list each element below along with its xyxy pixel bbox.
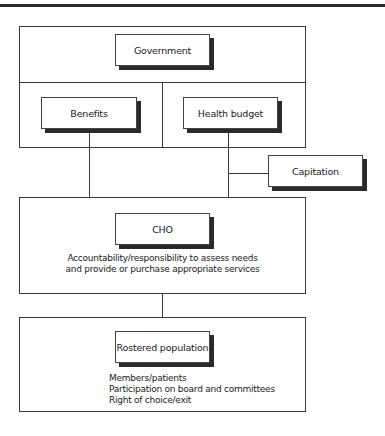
cho-description-line: Accountability/responsibility to assess … (19, 253, 306, 264)
rostered-description-line: Participation on board and committees (109, 384, 275, 395)
cho-section-frame (19, 197, 306, 294)
health-budget-label: Health budget (198, 108, 263, 119)
cho-description-line: and provide or purchase appropriate serv… (19, 264, 306, 275)
rostered-description-line: Right of choice/exit (109, 395, 275, 406)
benefits-to-cho-connector (89, 133, 90, 197)
cho-box: CHO (115, 213, 210, 245)
top-rule-divider (0, 4, 385, 7)
cho-description: Accountability/responsibility to assess … (19, 253, 306, 275)
rostered-description: Members/patients Participation on board … (109, 373, 275, 406)
rostered-description-line: Members/patients (109, 373, 275, 384)
rostered-population-label: Rostered population (117, 342, 209, 353)
government-column-divider (162, 82, 163, 148)
cho-label: CHO (152, 224, 173, 235)
capitation-box: Capitation (268, 155, 363, 187)
health-budget-box: Health budget (183, 97, 278, 129)
benefits-box: Benefits (41, 97, 137, 129)
government-box: Government (115, 34, 210, 66)
health-budget-to-cho-connector (228, 133, 229, 197)
government-label: Government (134, 45, 191, 56)
capitation-label: Capitation (292, 166, 339, 177)
rostered-population-box: Rostered population (115, 331, 210, 363)
capitation-connector (228, 173, 268, 174)
benefits-label: Benefits (70, 108, 107, 119)
cho-to-rostered-connector (162, 294, 163, 317)
